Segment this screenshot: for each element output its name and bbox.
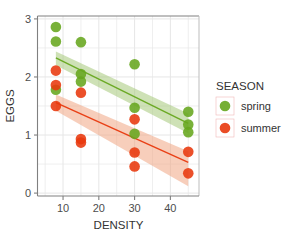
data-point <box>76 76 87 87</box>
y-axis-title: EGGS <box>4 89 16 123</box>
legend-item-spring[interactable]: spring <box>216 97 271 115</box>
data-point <box>129 114 140 125</box>
data-point <box>51 101 62 112</box>
y-tick-label: 0 <box>25 187 31 199</box>
legend-label-spring[interactable]: spring <box>241 100 271 112</box>
data-point <box>183 107 194 118</box>
data-point <box>76 87 87 98</box>
y-tick-label: 1 <box>25 129 31 141</box>
legend-key-marker-summer[interactable] <box>220 123 231 134</box>
x-axis-title: DENSITY <box>94 219 144 231</box>
data-point <box>51 65 62 76</box>
data-point <box>129 147 140 158</box>
data-point <box>183 127 194 138</box>
x-tick-label: 30 <box>128 202 140 214</box>
x-tick-label: 20 <box>93 202 105 214</box>
data-point <box>76 137 87 148</box>
legend-item-summer[interactable]: summer <box>216 119 281 137</box>
x-tick-label: 10 <box>57 202 69 214</box>
data-point <box>129 102 140 113</box>
data-point <box>183 147 194 158</box>
x-tick-label: 40 <box>164 202 176 214</box>
data-point <box>51 80 62 91</box>
legend-label-summer[interactable]: summer <box>241 122 281 134</box>
legend-key-marker-spring[interactable] <box>220 101 231 112</box>
data-point <box>51 36 62 47</box>
data-point <box>183 168 194 179</box>
data-point <box>129 59 140 70</box>
data-point <box>129 129 140 140</box>
legend-title: SEASON <box>216 80 264 92</box>
data-point <box>129 161 140 172</box>
data-point <box>76 37 87 48</box>
scatter-plot: 012310203040DENSITYEGGSSEASONspringsumme… <box>0 0 297 243</box>
chart-figure: 012310203040DENSITYEGGSSEASONspringsumme… <box>0 0 297 243</box>
y-tick-label: 2 <box>25 71 31 83</box>
y-tick-label: 3 <box>25 13 31 25</box>
data-point <box>51 22 62 33</box>
